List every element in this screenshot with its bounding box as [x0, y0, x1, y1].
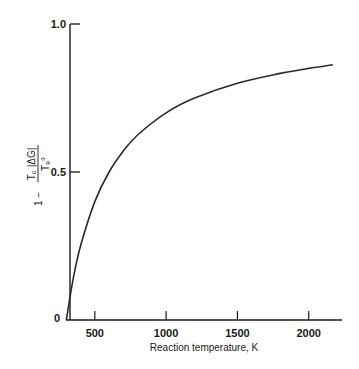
x-tick-label: 1000: [154, 327, 178, 339]
y-tick-label: 0.5: [51, 166, 66, 178]
chart: 0.51.0 500100015002000 0 Reaction temper…: [0, 0, 359, 369]
y-label-denominator: Tₑ°: [40, 157, 51, 171]
x-tick-label: 500: [86, 327, 104, 339]
y-axis-title: 1 − T₀ |ΔG| Tₑ°: [26, 145, 51, 206]
x-axis-title: Reaction temperature, K: [150, 342, 259, 353]
y-label-prefix: 1 −: [33, 192, 44, 206]
x-tick-label: 2000: [296, 327, 320, 339]
axes: [66, 24, 342, 320]
y-ticks: 0.51.0: [51, 18, 80, 178]
x-ticks: 500100015002000: [86, 311, 321, 339]
data-curve: [66, 65, 333, 320]
y-label-numerator: T₀ |ΔG|: [26, 148, 37, 181]
origin-label: 0: [54, 312, 60, 324]
x-tick-label: 1500: [225, 327, 249, 339]
y-tick-label: 1.0: [51, 18, 66, 30]
